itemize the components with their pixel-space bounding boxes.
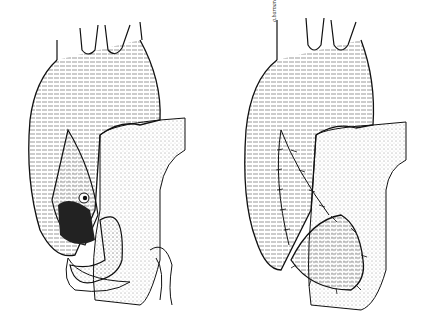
open-aortotomy-drawing: [0, 0, 211, 325]
left-panel-illustration: [0, 0, 211, 325]
closed-patch-repair-drawing: [211, 0, 422, 325]
artist-signature: a.barnard: [271, 0, 277, 22]
right-panel-illustration: a.barnard: [211, 0, 422, 325]
